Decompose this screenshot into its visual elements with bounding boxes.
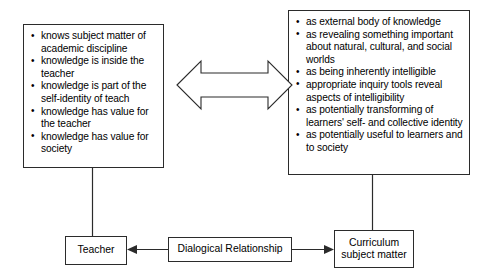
connector-overlay xyxy=(0,0,481,279)
left-arrowhead-icon xyxy=(127,245,137,254)
diagram-canvas: knows subject matter of academic discipl… xyxy=(0,0,481,279)
right-arrowhead-icon xyxy=(324,245,334,254)
double-headed-arrow-icon xyxy=(177,61,292,109)
